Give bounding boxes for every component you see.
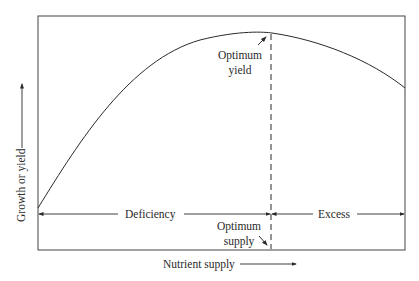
optimum-supply-label: Optimum supply	[214, 219, 264, 249]
diagram-canvas	[0, 0, 419, 281]
y-axis-label: Growth or yield	[15, 149, 27, 222]
deficiency-label: Deficiency	[125, 207, 175, 222]
optimum-supply-line1: Optimum	[214, 219, 264, 234]
optimum-yield-pointer	[258, 37, 266, 45]
optimum-supply-line2: supply	[214, 234, 264, 249]
optimum-yield-label: Optimum yield	[212, 48, 268, 78]
optimum-yield-line1: Optimum	[212, 48, 268, 63]
excess-label: Excess	[318, 207, 350, 222]
optimum-yield-line2: yield	[212, 63, 268, 78]
x-axis-label: Nutrient supply	[163, 257, 235, 272]
